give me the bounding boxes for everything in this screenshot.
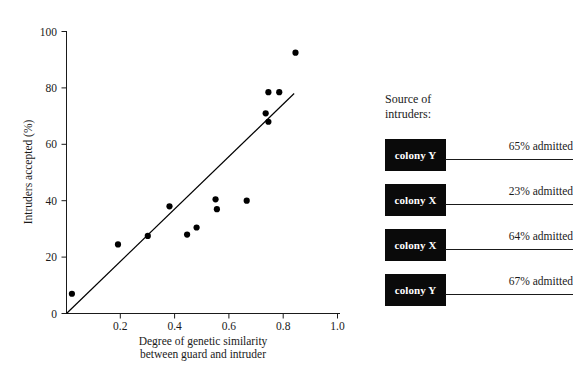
x-tick-label-1.0: 1.0 (330, 320, 345, 332)
data-point (292, 50, 298, 56)
data-point (166, 203, 172, 209)
data-point (115, 241, 121, 247)
y-tick-label-60: 60 (46, 138, 58, 150)
y-tick-label-40: 40 (46, 195, 58, 207)
data-point (212, 196, 218, 202)
colony-box: colony Y (385, 274, 446, 306)
data-point (145, 233, 151, 239)
data-point (265, 119, 271, 125)
source-row: colony X23% admitted (384, 184, 573, 216)
data-point (263, 110, 269, 116)
y-tick-label-20: 20 (46, 251, 58, 263)
data-point (184, 231, 190, 237)
scatter-plot: 100 80 60 40 20 0 Intruders accepted (%)… (0, 0, 370, 368)
colony-box-label: colony X (394, 239, 436, 251)
leader-line (445, 249, 573, 250)
colony-box: colony X (385, 184, 446, 216)
y-axis-title: Intruders accepted (%) (22, 119, 35, 224)
source-panel-heading: Source of intruders: (385, 92, 431, 122)
data-point (193, 224, 199, 230)
data-point (69, 291, 75, 297)
source-row: colony Y67% admitted (384, 274, 573, 306)
leader-line (445, 204, 573, 205)
admitted-percentage-label: 64% admitted (509, 230, 573, 242)
x-tick-label-0.4: 0.4 (167, 320, 182, 332)
x-axis-title-line2: between guard and intruder (140, 348, 266, 361)
data-point (214, 206, 220, 212)
colony-box-label: colony X (394, 194, 436, 206)
colony-box: colony Y (385, 139, 446, 171)
scatter-chart-panel: 100 80 60 40 20 0 Intruders accepted (%)… (0, 0, 370, 368)
x-axis-ticks (120, 314, 337, 319)
data-series-layer (67, 50, 299, 314)
data-point (244, 198, 250, 204)
source-row: colony X64% admitted (384, 229, 573, 261)
data-point (276, 89, 282, 95)
leader-line (445, 159, 573, 160)
y-tick-label-100: 100 (40, 26, 58, 38)
y-axis-ticks (62, 32, 67, 314)
admitted-percentage-label: 67% admitted (509, 275, 573, 287)
source-of-intruders-panel: Source of intruders: colony Y65% admitte… (384, 0, 573, 368)
x-axis-title-line1: Degree of genetic similarity (139, 335, 268, 348)
trend-line (67, 94, 295, 314)
y-tick-label-80: 80 (46, 82, 58, 94)
x-tick-label-0.2: 0.2 (113, 320, 128, 332)
leader-line (445, 294, 573, 295)
colony-box: colony X (385, 229, 446, 261)
admitted-percentage-label: 65% admitted (509, 140, 573, 152)
source-row: colony Y65% admitted (384, 139, 573, 171)
colony-box-label: colony Y (395, 284, 437, 296)
x-tick-label-0.6: 0.6 (222, 320, 237, 332)
colony-box-label: colony Y (395, 149, 437, 161)
data-point (265, 89, 271, 95)
admitted-percentage-label: 23% admitted (509, 185, 573, 197)
x-tick-label-0.8: 0.8 (276, 320, 291, 332)
y-tick-label-0: 0 (51, 308, 57, 320)
